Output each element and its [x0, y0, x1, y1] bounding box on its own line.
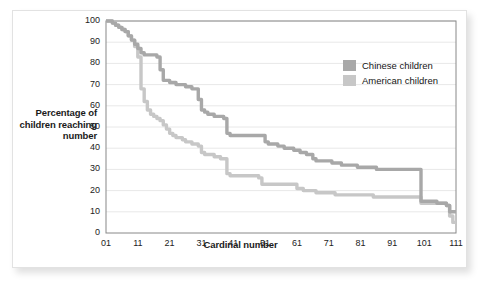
legend-item[interactable]: American children: [343, 75, 438, 86]
y-tick-label: 10: [76, 206, 100, 216]
y-tick-label: 70: [76, 79, 100, 89]
x-tick-label: 101: [409, 238, 439, 248]
x-tick-label: 31: [186, 238, 216, 248]
y-tick-label: 100: [76, 15, 100, 25]
y-tick-label: 50: [76, 121, 100, 131]
x-tick-label: 01: [91, 238, 121, 248]
y-tick-label: 90: [76, 36, 100, 46]
figure-card: Percentage of children reaching number C…: [12, 10, 467, 268]
x-tick-label: 51: [250, 238, 280, 248]
y-tick-label: 80: [76, 57, 100, 67]
legend-label: Chinese children: [362, 60, 433, 71]
x-tick-label: 61: [282, 238, 312, 248]
legend-swatch-icon: [343, 75, 356, 86]
x-tick-label: 71: [314, 238, 344, 248]
x-tick-label: 41: [218, 238, 248, 248]
x-tick-label: 81: [346, 238, 376, 248]
legend-swatch-icon: [343, 60, 356, 71]
legend-label: American children: [362, 75, 438, 86]
y-tick-label: 60: [76, 100, 100, 110]
x-tick-label: 21: [155, 238, 185, 248]
line-chart: Percentage of children reaching number C…: [13, 11, 468, 269]
legend-item[interactable]: Chinese children: [343, 60, 433, 71]
x-tick-label: 91: [377, 238, 407, 248]
y-tick-label: 40: [76, 142, 100, 152]
y-tick-label: 0: [76, 227, 100, 237]
x-tick-label: 11: [123, 238, 153, 248]
y-tick-label: 30: [76, 163, 100, 173]
y-tick-label: 20: [76, 185, 100, 195]
x-tick-label: 111: [441, 238, 471, 248]
